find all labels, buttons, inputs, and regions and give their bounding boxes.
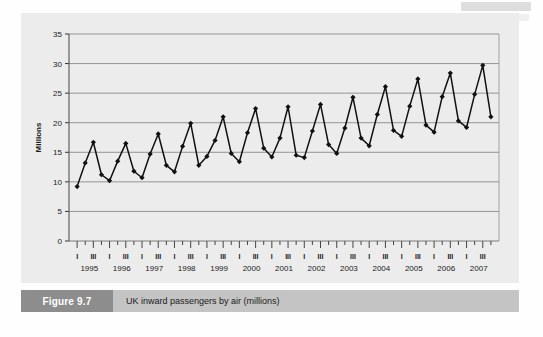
x-quarter-label: I bbox=[368, 253, 370, 260]
x-quarter-label: III bbox=[220, 253, 226, 260]
y-axis-title: Millions bbox=[34, 122, 43, 152]
x-quarter-label: III bbox=[350, 253, 356, 260]
y-tick-label: 25 bbox=[53, 89, 62, 98]
x-year-label: 2005 bbox=[405, 264, 423, 273]
x-quarter-label: I bbox=[109, 253, 111, 260]
x-quarter-label: I bbox=[271, 253, 273, 260]
x-quarter-label: I bbox=[238, 253, 240, 260]
x-quarter-label: I bbox=[141, 253, 143, 260]
x-quarter-label: III bbox=[188, 253, 194, 260]
x-quarter-label: I bbox=[206, 253, 208, 260]
y-tick-label: 10 bbox=[53, 178, 62, 187]
x-year-label: 2001 bbox=[275, 264, 293, 273]
y-tick-label: 15 bbox=[53, 148, 62, 157]
figure-number-label: Figure 9.7 bbox=[21, 290, 113, 312]
chart-background bbox=[21, 13, 519, 283]
x-quarter-label: III bbox=[90, 253, 96, 260]
figure-page: 05101520253035MillionsIIIIIIIIIIIIIIIIII… bbox=[0, 0, 543, 337]
y-tick-label: 0 bbox=[58, 237, 63, 246]
figure-caption-text: UK inward passengers by air (millions) bbox=[113, 290, 519, 312]
y-tick-label: 35 bbox=[53, 30, 62, 39]
x-year-label: 2007 bbox=[470, 264, 488, 273]
figure-caption-bar: Figure 9.7 UK inward passengers by air (… bbox=[21, 290, 519, 312]
x-quarter-label: III bbox=[155, 253, 161, 260]
y-tick-label: 5 bbox=[58, 207, 63, 216]
x-quarter-label: III bbox=[285, 253, 291, 260]
plot-area: 05101520253035MillionsIIIIIIIIIIIIIIIIII… bbox=[21, 13, 519, 283]
x-quarter-label: I bbox=[173, 253, 175, 260]
x-year-label: 2006 bbox=[437, 264, 455, 273]
x-quarter-label: III bbox=[253, 253, 259, 260]
line-chart: 05101520253035MillionsIIIIIIIIIIIIIIIIII… bbox=[21, 13, 519, 283]
x-year-label: 1998 bbox=[178, 264, 196, 273]
x-quarter-label: I bbox=[433, 253, 435, 260]
y-tick-label: 20 bbox=[53, 119, 62, 128]
x-quarter-label: III bbox=[382, 253, 388, 260]
x-year-label: 1996 bbox=[113, 264, 131, 273]
x-year-label: 2002 bbox=[308, 264, 326, 273]
x-quarter-label: I bbox=[336, 253, 338, 260]
chart-panel: 05101520253035MillionsIIIIIIIIIIIIIIIIII… bbox=[21, 13, 519, 283]
scan-artifact-top-right bbox=[461, 2, 531, 11]
x-year-label: 2004 bbox=[372, 264, 390, 273]
x-quarter-label: III bbox=[318, 253, 324, 260]
x-year-label: 2003 bbox=[340, 264, 358, 273]
x-quarter-label: III bbox=[480, 253, 486, 260]
x-quarter-label: I bbox=[76, 253, 78, 260]
x-quarter-label: III bbox=[415, 253, 421, 260]
x-quarter-label: I bbox=[401, 253, 403, 260]
y-tick-label: 30 bbox=[53, 60, 62, 69]
x-quarter-label: III bbox=[123, 253, 129, 260]
x-year-label: 1995 bbox=[80, 264, 98, 273]
x-year-label: 2000 bbox=[243, 264, 261, 273]
x-quarter-label: I bbox=[303, 253, 305, 260]
x-year-label: 1999 bbox=[210, 264, 228, 273]
x-quarter-label: I bbox=[466, 253, 468, 260]
x-year-label: 1997 bbox=[145, 264, 163, 273]
x-quarter-label: III bbox=[447, 253, 453, 260]
